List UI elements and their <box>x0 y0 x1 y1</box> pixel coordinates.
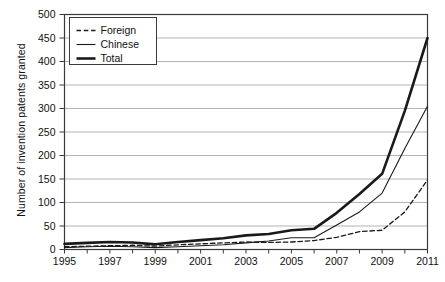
legend-label-chinese: Chinese <box>101 38 140 50</box>
x-tick-label: 2007 <box>325 255 349 267</box>
y-tick-labels-group: 050100150200250300350400450500 <box>38 8 56 255</box>
y-tick-marks-group <box>60 15 65 250</box>
line-chart-plot: 050100150200250300350400450500 199519971… <box>0 0 445 282</box>
x-tick-labels-group: 199519971999200120032005200720092011 <box>53 255 439 267</box>
y-tick-label: 500 <box>38 8 56 20</box>
legend-label-total: Total <box>101 52 123 64</box>
legend-label-foreign: Foreign <box>101 24 137 36</box>
x-tick-label: 2011 <box>416 255 439 267</box>
x-tick-label: 2001 <box>189 255 213 267</box>
y-tick-label: 200 <box>38 149 56 161</box>
y-tick-label: 400 <box>38 55 56 67</box>
y-tick-label: 0 <box>50 243 56 255</box>
y-tick-label: 250 <box>38 126 56 138</box>
x-tick-label: 2003 <box>234 255 258 267</box>
y-tick-label: 100 <box>38 196 56 208</box>
x-tick-marks-group <box>65 250 428 254</box>
x-tick-label: 1995 <box>53 255 77 267</box>
y-tick-label: 350 <box>38 79 56 91</box>
chart-container: Number of invention patents granted 0501… <box>0 0 445 282</box>
series-line-total <box>65 38 428 244</box>
y-tick-label: 50 <box>44 220 56 232</box>
data-series-group <box>65 38 428 248</box>
x-tick-label: 1999 <box>144 255 168 267</box>
y-tick-label: 450 <box>38 32 56 44</box>
legend: ForeignChineseTotal <box>70 18 157 65</box>
y-tick-label: 150 <box>38 173 56 185</box>
x-tick-label: 2009 <box>370 255 394 267</box>
y-tick-label: 300 <box>38 102 56 114</box>
x-tick-label: 2005 <box>280 255 304 267</box>
x-tick-label: 1997 <box>98 255 122 267</box>
